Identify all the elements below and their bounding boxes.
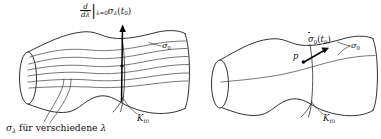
velocity-close-paren: ) [327,34,330,44]
left-cap-ellipse [20,52,37,104]
caption-text: für verschiedene [16,122,100,133]
label-left-sigma-zero: σ0 [162,41,171,49]
sigma-with-overdot: σ [308,35,314,43]
right-far-rim [373,39,377,111]
label-velocity-vector: σ 0(t0) [308,35,331,43]
left-k-subsubscript: 0 [146,118,149,124]
right-point-p-dot [302,60,306,64]
left-sigma-zero-subscript: 0 [168,45,171,51]
argument-close-paren: ) [128,6,131,16]
right-k-subsubscript: 0 [332,118,335,124]
evaluation-bar: | [91,6,96,16]
label-right-sigma-zero: σ0 [351,41,360,49]
figure-root: d dλ |λ=0σλ(t0) σ0 Kt0 σλ für verschiede… [0,0,381,139]
caption-curve-family: σλ für verschiedene λ [6,123,106,132]
right-sigma-zero-subscript: 0 [357,45,360,51]
left-basepoint-dot [120,64,123,67]
fraction-denominator: dλ [80,11,91,19]
evaluation-bar-subscript: λ=0 [96,10,108,16]
right-cap-ellipse [212,60,229,108]
caption-lambda: λ [100,122,106,133]
label-right-cross-section: Kt0 [323,114,335,123]
left-variation-arrow-head [119,25,126,33]
velocity-sigma-symbol: σ [308,34,314,44]
derivative-fraction: d dλ [80,3,91,19]
left-far-rim [185,34,189,109]
label-point-p: p [293,52,298,60]
label-variation-derivative: d dλ |λ=0σλ(t0) [80,3,131,19]
label-left-cross-section: Kt0 [137,114,149,123]
